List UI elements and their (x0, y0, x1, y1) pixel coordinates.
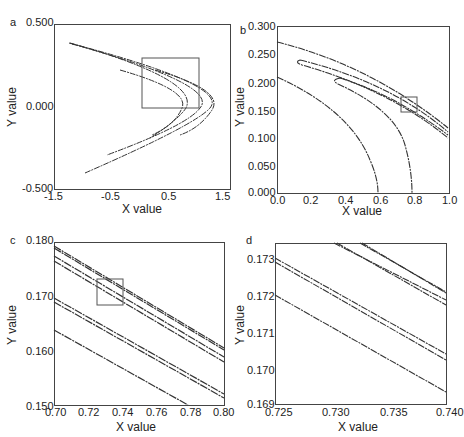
attractor-plot (0, 0, 464, 437)
